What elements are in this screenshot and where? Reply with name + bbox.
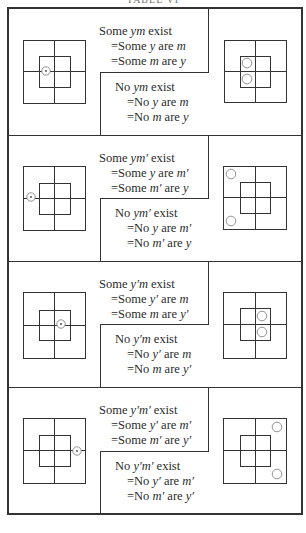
text-fragment: Some (99, 403, 131, 417)
text-fragment: =Some (111, 39, 150, 53)
term-variable: y′ (183, 362, 191, 376)
empty-circle-icon (226, 216, 236, 226)
text-fragment: Some (99, 24, 131, 38)
term-variable: y′ (150, 292, 158, 306)
some-exist-statement: Some ym exist=Some y are m=Some m are y (99, 24, 186, 69)
none-exist-statement-line2: =No y are m′ (115, 221, 191, 236)
text-fragment: No (115, 206, 133, 220)
empty-circle-icon (272, 469, 282, 479)
empty-circle-icon (226, 169, 236, 179)
some-exist-statement-line2: =Some y′ are m′ (99, 418, 191, 433)
term-variable: m′ (177, 166, 189, 180)
text-fragment: No (115, 459, 133, 473)
term-variable: m (150, 54, 159, 68)
text-fragment: exist (145, 24, 172, 38)
none-exist-statement: No y′m exist=No y′ are m=No m are y′ (115, 332, 191, 377)
none-exist-statement-line3: =No m are y′ (115, 362, 191, 377)
center-dot-icon (60, 323, 62, 325)
none-exist-statement-line2: =No y′ are m′ (115, 474, 194, 489)
none-exist-statement-line1: No y′m exist (115, 332, 191, 347)
some-exist-statement-line3: =Some m′ are y (99, 181, 189, 196)
text-fragment: Some (99, 151, 131, 165)
some-exist-statement-line2: =Some y′ are m (99, 292, 189, 307)
none-exist-statement: No ym exist=No y are m=No m are y (115, 80, 189, 125)
term-variable: m′ (179, 418, 191, 432)
text-fragment: are (161, 362, 183, 376)
text-fragment: exist (151, 403, 178, 417)
text-fragment: are (159, 54, 181, 68)
text-fragment: =Some (111, 307, 150, 321)
none-exist-statement-line3: =No m′ are y′ (115, 489, 194, 504)
term-variable: m′ (150, 181, 162, 195)
text-fragment: =Some (111, 433, 150, 447)
some-exist-statement-line1: Some y′m exist (99, 277, 189, 292)
empty-circle-icon (242, 74, 252, 84)
term-variable: y (186, 236, 192, 250)
some-exist-statement-line1: Some y′m′ exist (99, 403, 191, 418)
term-variable: y′m (131, 277, 148, 291)
term-variable: m′ (150, 433, 162, 447)
term-variable: m (182, 347, 191, 361)
term-variable: y (183, 181, 189, 195)
some-exist-statement-line1: Some ym exist (99, 24, 186, 39)
center-dot-icon (30, 196, 32, 198)
text-fragment: exist (151, 332, 178, 346)
center-dot-icon (45, 70, 47, 72)
none-exist-statement-line3: =No m′ are y (115, 236, 191, 251)
text-fragment: =Some (111, 166, 150, 180)
text-fragment: exist (148, 277, 175, 291)
none-exist-statement-line3: =No m are y (115, 110, 189, 125)
term-variable: y′m′ (131, 403, 151, 417)
term-variable: y′m (133, 332, 150, 346)
none-exist-statement: No ym′ exist=No y are m′=No m′ are y (115, 206, 191, 251)
empty-circle-icon (272, 422, 282, 432)
text-fragment: are (164, 489, 186, 503)
text-fragment: =No (127, 236, 152, 250)
empty-circle-icon (257, 311, 267, 321)
term-variable: y′ (183, 433, 191, 447)
text-fragment: No (115, 80, 133, 94)
text-fragment: =No (127, 489, 152, 503)
text-fragment: =Some (111, 54, 150, 68)
some-exist-statement: Some y′m exist=Some y′ are m=Some m are … (99, 277, 189, 322)
text-fragment: =Some (111, 181, 150, 195)
term-variable: y (180, 54, 186, 68)
text-fragment: are (161, 110, 183, 124)
some-exist-statement-line3: =Some m are y′ (99, 307, 189, 322)
some-exist-statement-line3: =Some m′ are y′ (99, 433, 191, 448)
text-fragment: exist (148, 151, 175, 165)
none-exist-statement-line1: No ym exist (115, 80, 189, 95)
term-variable: ym (133, 80, 148, 94)
term-variable: y′m′ (133, 459, 153, 473)
some-exist-statement-line3: =Some m are y (99, 54, 186, 69)
text-fragment: are (158, 95, 180, 109)
text-fragment: =No (127, 362, 152, 376)
term-variable: m (179, 292, 188, 306)
some-exist-statement-line1: Some ym′ exist (99, 151, 189, 166)
text-fragment: No (115, 332, 133, 346)
term-variable: m′ (152, 489, 164, 503)
text-fragment: are (158, 221, 180, 235)
some-exist-statement-line2: =Some y are m (99, 39, 186, 54)
some-exist-statement: Some ym′ exist=Some y are m′=Some m′ are… (99, 151, 189, 196)
term-variable: y′ (152, 347, 160, 361)
text-fragment: exist (151, 206, 178, 220)
text-fragment: =No (127, 347, 152, 361)
text-fragment: are (159, 307, 181, 321)
text-fragment: are (164, 236, 186, 250)
empty-circle-icon (242, 58, 252, 68)
term-variable: m′ (182, 474, 194, 488)
syllogism-table: TABLE VI Some ym exist=Some y are m=Some… (0, 0, 306, 533)
none-exist-statement-line1: No ym′ exist (115, 206, 191, 221)
text-fragment: are (155, 39, 177, 53)
text-fragment: are (161, 474, 183, 488)
term-variable: m′ (180, 221, 192, 235)
text-fragment: =Some (111, 418, 150, 432)
text-fragment: are (161, 433, 183, 447)
some-exist-statement-line2: =Some y are m′ (99, 166, 189, 181)
term-variable: ym′ (131, 151, 148, 165)
text-fragment: =No (127, 474, 152, 488)
term-variable: y′ (150, 418, 158, 432)
text-fragment: exist (153, 459, 180, 473)
term-variable: ym′ (133, 206, 150, 220)
